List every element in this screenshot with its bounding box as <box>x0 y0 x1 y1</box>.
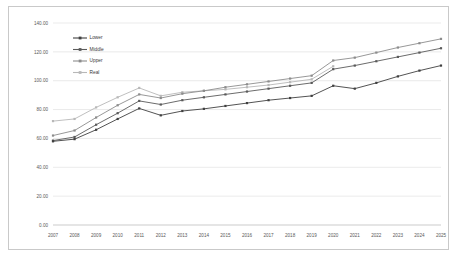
series-line-middle <box>53 48 441 140</box>
series-marker-middle <box>117 112 119 114</box>
series-marker-upper <box>311 75 313 77</box>
series-marker-middle <box>289 85 291 87</box>
series-marker-lower <box>267 99 269 101</box>
series-marker-real <box>52 120 54 122</box>
x-axis-tick-label: 2014 <box>199 233 210 238</box>
x-axis-tick-label: 2015 <box>220 233 231 238</box>
series-marker-middle <box>203 96 205 98</box>
series-marker-real <box>160 95 162 97</box>
x-axis-tick-label: 2020 <box>328 233 339 238</box>
legend-marker-real <box>79 71 82 74</box>
x-axis-tick-label: 2007 <box>48 233 59 238</box>
series-marker-upper <box>73 129 75 131</box>
legend-label-lower: Lower <box>90 35 103 40</box>
series-marker-lower <box>332 85 334 87</box>
series-marker-lower <box>160 114 162 116</box>
line-chart: 0.0020.0040.0060.0080.00100.00120.00140.… <box>9 7 450 251</box>
legend-marker-middle <box>79 48 82 51</box>
series-marker-upper <box>267 80 269 82</box>
x-axis-tick-label: 2009 <box>91 233 102 238</box>
series-marker-real <box>289 81 291 83</box>
legend-label-real: Real <box>90 70 100 75</box>
series-marker-lower <box>181 110 183 112</box>
series-marker-upper <box>224 86 226 88</box>
series-marker-upper <box>246 83 248 85</box>
series-marker-upper <box>181 93 183 95</box>
series-marker-real <box>267 84 269 86</box>
series-marker-middle <box>354 64 356 66</box>
series-marker-real <box>117 96 119 98</box>
series-marker-upper <box>440 38 442 40</box>
series-marker-real <box>95 106 97 108</box>
x-axis-tick-label: 2011 <box>134 233 144 238</box>
legend-marker-upper <box>79 60 82 63</box>
series-marker-middle <box>375 60 377 62</box>
series-marker-middle <box>246 90 248 92</box>
series-marker-upper <box>332 59 334 61</box>
series-marker-lower <box>203 108 205 110</box>
x-axis-tick-label: 2019 <box>307 233 318 238</box>
x-axis-tick-label: 2023 <box>393 233 404 238</box>
series-marker-lower <box>52 140 54 142</box>
series-marker-middle <box>95 124 97 126</box>
series-marker-lower <box>224 105 226 107</box>
series-marker-middle <box>440 47 442 49</box>
series-marker-lower <box>117 118 119 120</box>
series-marker-lower <box>311 95 313 97</box>
chart-frame: 0.0020.0040.0060.0080.00100.00120.00140.… <box>8 6 449 250</box>
y-axis-tick-label: 120.00 <box>34 50 48 55</box>
series-marker-real <box>332 65 334 67</box>
series-marker-lower <box>397 75 399 77</box>
series-marker-middle <box>418 51 420 53</box>
y-axis-tick-label: 100.00 <box>34 78 48 83</box>
legend-label-upper: Upper <box>90 58 103 63</box>
x-axis-tick-label: 2024 <box>414 233 425 238</box>
series-marker-upper <box>375 51 377 53</box>
series-marker-upper <box>117 104 119 106</box>
legend-marker-lower <box>79 37 82 40</box>
y-axis-tick-label: 80.00 <box>37 107 49 112</box>
series-marker-lower <box>95 129 97 131</box>
series-marker-middle <box>138 100 140 102</box>
series-marker-upper <box>52 134 54 136</box>
x-axis-tick-label: 2012 <box>156 233 167 238</box>
x-axis-tick-label: 2010 <box>113 233 124 238</box>
y-axis-tick-label: 20.00 <box>37 194 49 199</box>
series-marker-middle <box>160 103 162 105</box>
legend-label-middle: Middle <box>90 47 104 52</box>
x-axis-tick-label: 2022 <box>371 233 382 238</box>
series-marker-middle <box>332 68 334 70</box>
x-axis-tick-label: 2018 <box>285 233 296 238</box>
series-marker-lower <box>375 82 377 84</box>
y-axis-tick-label: 0.00 <box>39 223 48 228</box>
series-marker-lower <box>418 70 420 72</box>
series-marker-upper <box>289 77 291 79</box>
y-axis-tick-label: 140.00 <box>34 21 48 26</box>
series-marker-upper <box>418 42 420 44</box>
series-marker-middle <box>311 82 313 84</box>
series-marker-upper <box>138 93 140 95</box>
series-marker-lower <box>73 138 75 140</box>
series-marker-upper <box>203 90 205 92</box>
series-marker-real <box>138 87 140 89</box>
y-axis-tick-label: 40.00 <box>37 165 49 170</box>
series-marker-middle <box>397 56 399 58</box>
series-marker-upper <box>354 57 356 59</box>
series-marker-lower <box>354 88 356 90</box>
series-marker-middle <box>73 136 75 138</box>
series-marker-real <box>224 88 226 90</box>
series-marker-upper <box>95 116 97 118</box>
chart-plot-area: 0.0020.0040.0060.0080.00100.00120.00140.… <box>9 7 448 249</box>
series-marker-middle <box>267 88 269 90</box>
y-axis-tick-label: 60.00 <box>37 136 49 141</box>
x-axis-tick-label: 2017 <box>263 233 274 238</box>
x-axis-tick-label: 2025 <box>436 233 447 238</box>
series-marker-middle <box>181 99 183 101</box>
x-axis-tick-label: 2008 <box>69 233 80 238</box>
series-marker-lower <box>440 64 442 66</box>
series-marker-lower <box>138 107 140 109</box>
x-axis-tick-label: 2013 <box>177 233 188 238</box>
series-marker-upper <box>397 46 399 48</box>
series-marker-lower <box>246 102 248 104</box>
series-marker-real <box>246 86 248 88</box>
